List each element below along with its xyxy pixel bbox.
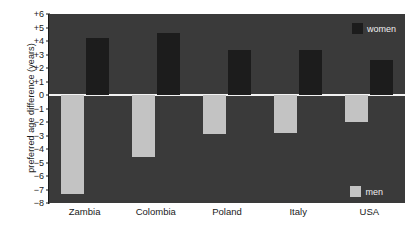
y-axis-tick-labels: +6+5+4+3+2+10−1−2−3−4−5−6−7−8 [22, 14, 48, 203]
legend-swatch-men [350, 186, 361, 197]
x-tick-label-zambia: Zambia [69, 206, 101, 217]
bar-women-zambia [86, 38, 109, 95]
y-tick-label: +2 [34, 63, 44, 73]
y-tick-label: −6 [34, 171, 44, 181]
x-axis-category-labels: ZambiaColombiaPolandItalyUSA [49, 206, 405, 226]
x-tick-label-poland: Poland [212, 206, 242, 217]
bar-men-usa [345, 95, 368, 122]
y-tick-label: +5 [34, 23, 44, 33]
legend-item-women: women [352, 23, 396, 34]
y-tick-label: −8 [34, 198, 44, 208]
y-tick-label: −7 [34, 185, 44, 195]
bar-men-poland [203, 95, 226, 134]
x-tick-label-colombia: Colombia [136, 206, 176, 217]
bar-women-italy [299, 50, 322, 95]
bar-women-colombia [157, 33, 180, 95]
x-tick-label-italy: Italy [289, 206, 306, 217]
bar-men-zambia [61, 95, 84, 194]
bar-women-poland [228, 50, 251, 95]
y-tick-label: −1 [34, 104, 44, 114]
y-tick-label: −3 [34, 131, 44, 141]
y-tick-label: +6 [34, 9, 44, 19]
legend-label-men: men [365, 187, 383, 197]
y-tick-label: −2 [34, 117, 44, 127]
bar-men-italy [274, 95, 297, 133]
legend-label-women: women [367, 24, 396, 34]
y-tick-label: 0 [39, 90, 44, 100]
bar-men-colombia [132, 95, 155, 157]
y-tick-label: −4 [34, 144, 44, 154]
y-tick-label: −5 [34, 158, 44, 168]
y-tick-label: +1 [34, 77, 44, 87]
plot-area: women men [49, 14, 405, 203]
y-tick-label: +3 [34, 50, 44, 60]
x-tick-label-usa: USA [360, 206, 380, 217]
bar-chart-figure: preferred age difference (years) +6+5+4+… [0, 0, 413, 235]
legend-item-men: men [350, 186, 383, 197]
y-tick-label: +4 [34, 36, 44, 46]
legend-swatch-women [352, 23, 363, 34]
bar-women-usa [370, 60, 393, 95]
